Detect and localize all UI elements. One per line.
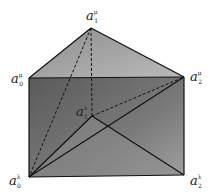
label-a0-lambda: aλ0	[9, 173, 21, 189]
label-a2-lambda: aλ2	[190, 173, 202, 189]
label-a1-mu: aμ1	[86, 8, 98, 24]
label-a0-mu: aμ0	[11, 71, 23, 87]
label-a2-mu: aμ2	[190, 69, 202, 85]
prism-diagram: aμ1 aμ0 aμ2 aλ1 aλ0 aλ2	[0, 0, 216, 194]
